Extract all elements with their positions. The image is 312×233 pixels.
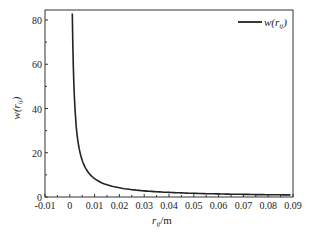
svg-text:0.03: 0.03	[135, 200, 153, 211]
svg-text:40: 40	[32, 104, 42, 115]
legend: w(rij)	[238, 16, 287, 30]
svg-text:0.09: 0.09	[284, 200, 302, 211]
y-axis-label: w(rij)	[10, 96, 24, 119]
data-series	[72, 13, 290, 195]
plot-area	[45, 10, 293, 197]
svg-text:60: 60	[32, 59, 42, 70]
svg-text:0.07: 0.07	[235, 200, 253, 211]
svg-text:0.05: 0.05	[185, 200, 203, 211]
svg-text:80: 80	[32, 15, 42, 26]
svg-text:0: 0	[37, 192, 42, 203]
chart: -0.0100.010.020.030.040.050.060.070.080.…	[0, 0, 312, 233]
svg-text:0.06: 0.06	[210, 200, 228, 211]
svg-text:20: 20	[32, 148, 42, 159]
svg-text:0.04: 0.04	[160, 200, 178, 211]
svg-text:0.01: 0.01	[86, 200, 104, 211]
svg-text:0.02: 0.02	[111, 200, 129, 211]
x-axis-label: rij/m	[152, 214, 172, 228]
svg-text:0: 0	[67, 200, 72, 211]
svg-text:w(rij): w(rij)	[264, 16, 287, 30]
svg-text:0.08: 0.08	[259, 200, 277, 211]
